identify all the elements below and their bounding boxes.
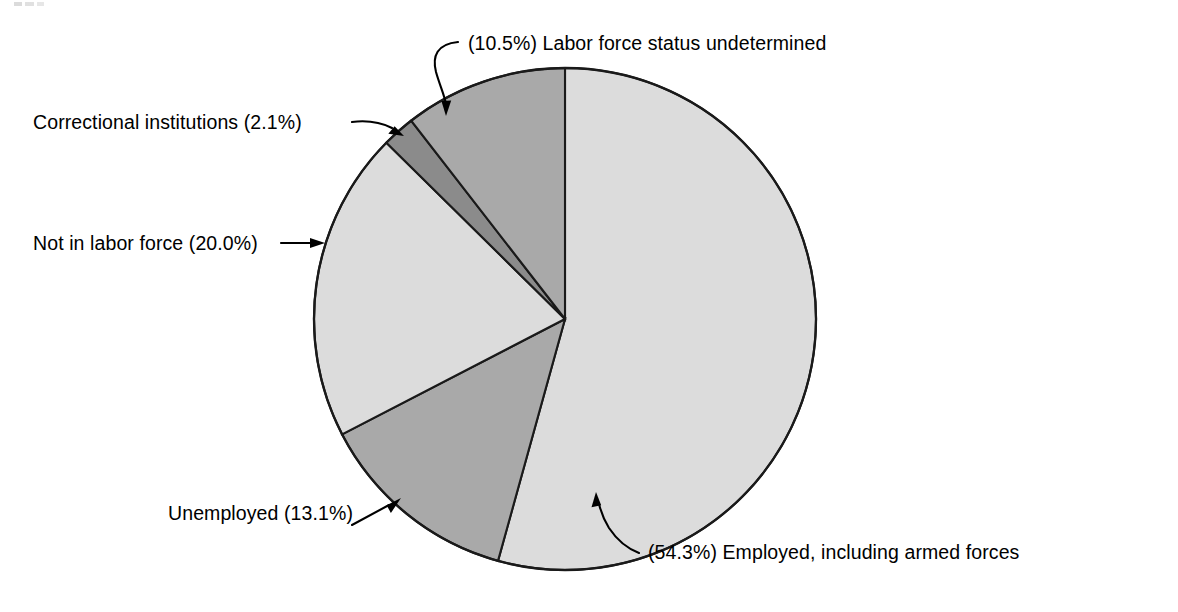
pie-label-not-in-labor-force: Not in labor force (20.0%) [33, 232, 258, 254]
scan-artifact [14, 2, 44, 6]
leader-line-correctional [352, 121, 392, 128]
pie-label-employed: (54.3%) Employed, including armed forces [648, 541, 1019, 563]
leader-line-unemployed [352, 505, 389, 525]
pie-label-correctional-institutions: Correctional institutions (2.1%) [33, 111, 302, 133]
leader-arrowhead-not-in-labor-force [310, 238, 325, 248]
pie-chart-figure: (10.5%) Labor force status undetermined … [0, 0, 1178, 612]
pie-label-unemployed: Unemployed (13.1%) [168, 502, 353, 524]
pie-label-labor-force-status-undetermined: (10.5%) Labor force status undetermined [468, 32, 826, 54]
